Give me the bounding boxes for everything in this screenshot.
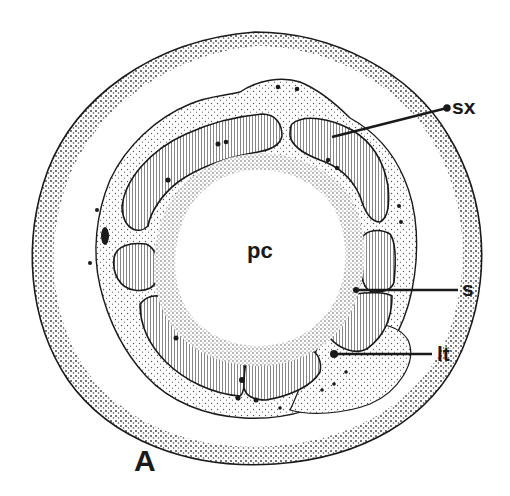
xylem-bundle <box>360 231 395 292</box>
label-pith-cavity: pc <box>247 240 273 262</box>
label-secondary-xylem: sx <box>452 96 475 117</box>
label-s: s <box>462 278 474 299</box>
xylem-bundle <box>114 244 159 291</box>
label-leaf-trace: lt <box>437 343 450 364</box>
panel-label: A <box>134 446 156 476</box>
